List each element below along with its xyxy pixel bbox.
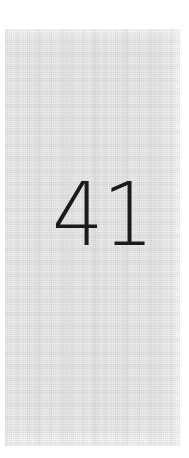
paper-shading — [5, 29, 180, 446]
paper-grain-texture — [5, 29, 180, 446]
paper-mottle-texture — [5, 29, 180, 446]
paper-sheet: 41 — [5, 29, 180, 446]
page-folio: 41 — [5, 174, 180, 269]
page-number: 41 — [52, 174, 153, 256]
scanned-page: 41 — [0, 0, 189, 458]
